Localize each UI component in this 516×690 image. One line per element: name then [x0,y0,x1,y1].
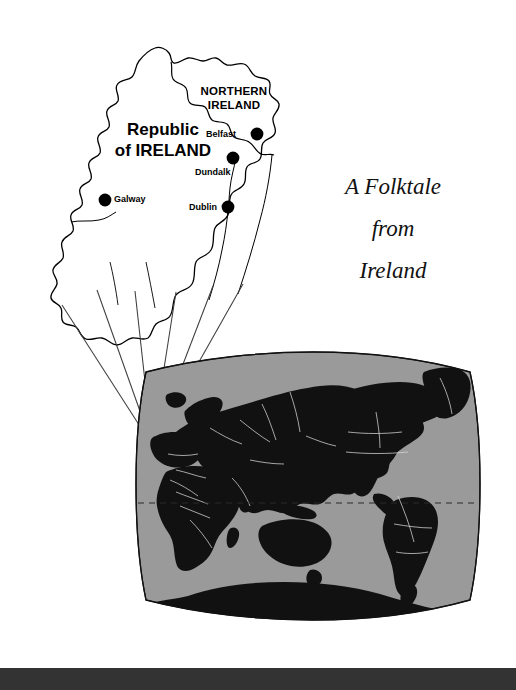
leader-line-6 [152,284,243,445]
city-dot-galway [99,194,112,207]
subtitle-line-2: from [300,208,486,250]
land-greenland [422,368,470,419]
city-dot-dublin [222,201,235,214]
city-label-belfast: Belfast [206,129,236,140]
land-madagascar [227,527,240,548]
city-label-dundalk: Dundalk [195,167,231,178]
land-scandinavia [184,397,222,431]
land-africa [157,466,241,571]
southern-interior-line-2 [146,262,155,308]
country-borders [168,378,452,554]
land-north-america [328,382,444,496]
city-label-dublin: Dublin [189,202,217,213]
land-new-zealand [306,569,322,586]
roi-line-1: Republic [127,120,199,139]
leader-line-1 [62,305,152,445]
land-europe [150,432,203,468]
region-label-northern-ireland: NORTHERN IRELAND [186,84,282,112]
leader-line-3 [135,291,152,445]
subtitle-line-3: Ireland [300,250,486,292]
globe-landmasses [136,368,471,641]
land-southeast-asia [263,485,296,507]
land-antarctica [136,582,470,640]
land-japan [317,448,335,464]
land-south-america [383,497,438,597]
region-label-republic-of-ireland: Republic of IRELAND [96,119,230,161]
land-indonesia [280,505,316,519]
land-central-america [373,493,397,516]
galway-bay-detail [71,212,116,222]
footer-rule [0,668,516,690]
globe-ocean [136,352,480,620]
callout-leader-lines [62,284,243,445]
ni-line-1: NORTHERN [201,85,268,97]
leader-line-2 [97,290,152,445]
subtitle-line-1: A Folktale [300,166,486,208]
land-eurasia [176,385,424,513]
page-title-strip: The Devil and... [0,0,516,6]
globe-outline [136,352,480,620]
southern-interior-line-1 [110,262,118,305]
city-dot-belfast [251,128,264,141]
subtitle-block: A Folktale from Ireland [300,166,486,292]
ni-line-2: IRELAND [208,99,261,111]
leader-line-4 [152,292,176,445]
land-india [236,477,261,512]
city-label-galway: Galway [114,194,146,205]
land-australia [258,519,331,567]
roi-line-2: of IRELAND [115,141,211,160]
land-antarctic-peninsula [400,584,417,609]
irish-sea-guide [209,158,236,300]
page-title: The Devil and... [0,0,516,4]
land-iceland [166,392,187,408]
east-coast-guide [238,155,272,294]
page-canvas: The Devil and... NORTHERN [0,0,516,690]
land-alaska [327,396,356,415]
leader-line-5 [152,286,213,445]
